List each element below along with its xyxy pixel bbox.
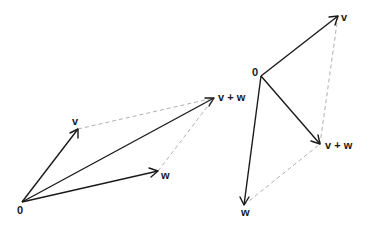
- left-label-vw: v + w: [218, 92, 245, 103]
- left-vector-vw: [22, 98, 214, 202]
- right-label-w: w: [241, 207, 250, 218]
- right-label-origin: 0: [252, 67, 258, 78]
- right-dashed-v-to-vw: [320, 16, 338, 144]
- right-parallelogram: [240, 16, 338, 205]
- right-vector-v: [261, 16, 338, 76]
- right-vector-vw: [261, 76, 320, 144]
- left-dashed-w-to-vw: [158, 98, 214, 171]
- left-parallelogram: [22, 98, 214, 202]
- vector-addition-diagram: 0 v w v + w 0 v w v + w: [0, 0, 370, 229]
- left-label-origin: 0: [17, 205, 23, 216]
- diagram-svg: [0, 0, 370, 229]
- left-label-v: v: [72, 116, 78, 127]
- left-label-w: w: [161, 170, 170, 181]
- right-label-v: v: [341, 12, 347, 23]
- right-label-vw: v + w: [325, 140, 352, 151]
- right-dashed-w-to-vw: [244, 144, 320, 205]
- right-vector-w: [244, 76, 261, 205]
